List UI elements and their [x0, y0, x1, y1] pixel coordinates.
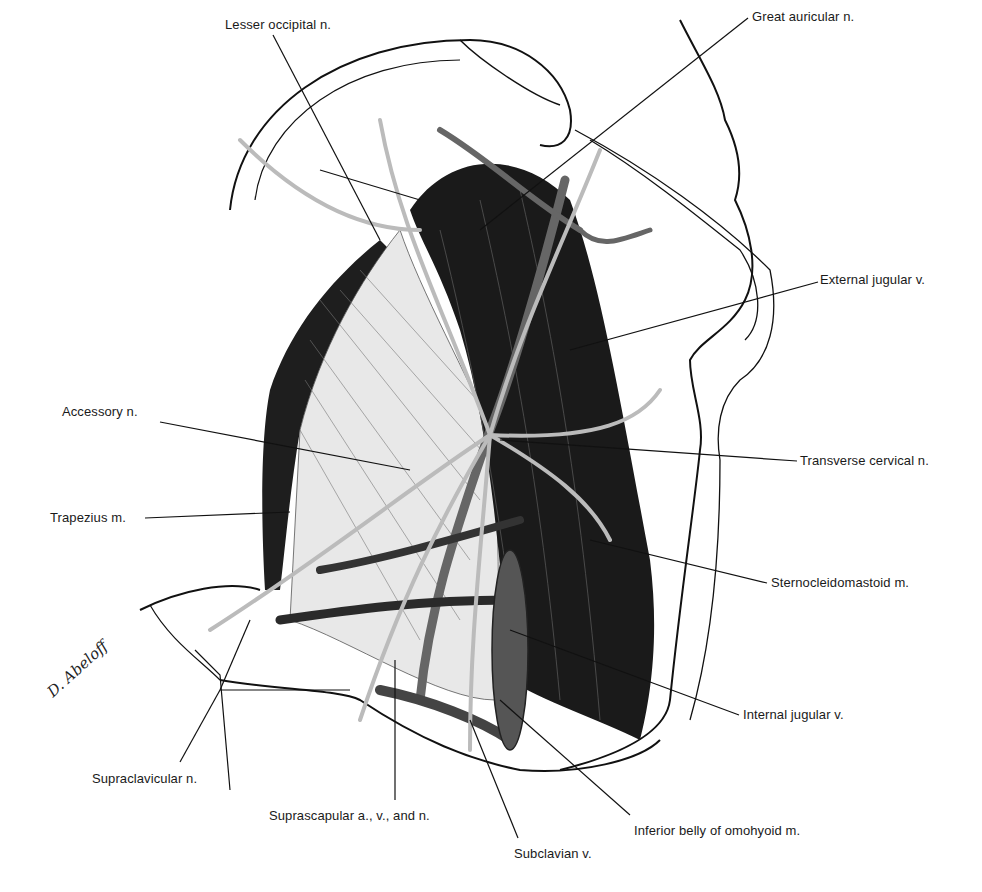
- label-great-auricular: Great auricular n.: [752, 9, 854, 24]
- label-internal-jugular: Internal jugular v.: [743, 707, 844, 722]
- label-suprascapular: Suprascapular a., v., and n.: [269, 808, 430, 823]
- label-trapezius: Trapezius m.: [50, 510, 126, 525]
- label-inferior-belly-omohyoid: Inferior belly of omohyoid m.: [634, 823, 800, 838]
- label-transverse-cervical: Transverse cervical n.: [800, 453, 929, 468]
- label-accessory: Accessory n.: [62, 404, 138, 419]
- label-subclavian: Subclavian v.: [514, 846, 592, 861]
- label-lesser-occipital: Lesser occipital n.: [225, 17, 331, 32]
- label-external-jugular: External jugular v.: [820, 272, 925, 287]
- label-supraclavicular: Supraclavicular n.: [92, 771, 197, 786]
- label-sternocleidomastoid: Sternocleidomastoid m.: [771, 575, 909, 590]
- anatomy-illustration: [0, 0, 982, 892]
